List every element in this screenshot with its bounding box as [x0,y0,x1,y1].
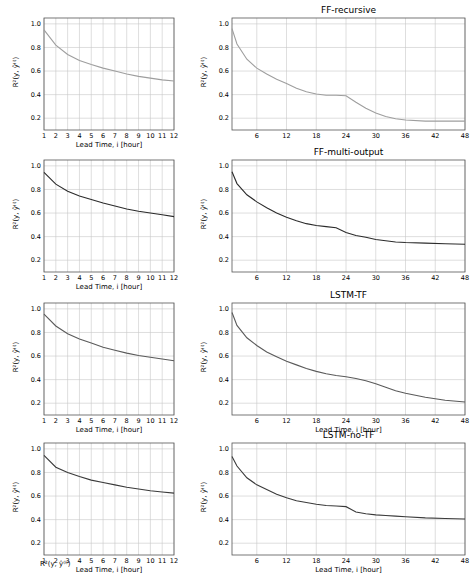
y-tick-label: 0.8 [18,329,41,337]
x-tick-label: 2 [51,132,60,140]
y-tick-label: 0.6 [18,492,41,500]
x-tick-label: 36 [399,132,413,140]
axes-frame [232,443,465,555]
y-tick-label: 0.2 [18,539,41,547]
x-tick-label: 6 [250,132,264,140]
x-tick-label: 1 [40,132,49,140]
x-tick-label: 5 [87,417,96,425]
x-tick-label: 8 [122,557,131,565]
x-tick-label: 42 [428,274,442,282]
y-tick-label: 0.4 [206,91,229,99]
y-tick-label: 1.0 [206,162,229,170]
y-tick-label: 0.4 [18,91,41,99]
x-tick-label: 4 [75,274,84,282]
y-tick-label: 0.2 [18,114,41,122]
y-tick-label: 0.2 [18,256,41,264]
y-axis-label: R²(y, ŷ⁽ⁱ⁾) [12,467,20,527]
axes-frame [44,443,174,555]
x-tick-label: 4 [75,132,84,140]
y-tick-label: 0.8 [206,469,229,477]
x-tick-label: 18 [309,274,323,282]
x-tick-label: 4 [75,417,84,425]
axes-frame [44,160,174,272]
panel-title: LSTM-no-TF [232,430,465,440]
x-tick-label: 10 [146,274,155,282]
x-tick-label: 3 [63,417,72,425]
x-tick-label: 30 [369,417,383,425]
x-axis-label: Lead Time, i [hour] [232,566,465,574]
x-tick-label: 36 [399,274,413,282]
axes-frame [44,303,174,415]
y-axis-label: R²(y, ŷ⁽ⁱ⁾) [200,327,208,387]
y-tick-label: 0.8 [206,44,229,52]
y-tick-label: 0.6 [18,67,41,75]
axes-frame [232,18,465,130]
x-tick-label: 8 [122,274,131,282]
x-tick-label: 30 [369,557,383,565]
x-tick-label: 8 [122,417,131,425]
x-tick-label: 7 [110,274,119,282]
x-tick-label: 5 [87,132,96,140]
x-tick-label: 8 [122,132,131,140]
data-series-line [232,457,465,519]
y-tick-label: 0.8 [206,186,229,194]
x-tick-label: 12 [170,417,179,425]
x-tick-label: 6 [99,132,108,140]
x-tick-label: 11 [158,132,167,140]
x-tick-label: 1 [40,417,49,425]
axes-frame [44,18,174,130]
x-tick-label: 24 [339,132,353,140]
y-axis-label: R²(y, ŷ⁽ⁱ⁾) [200,42,208,102]
panel-title: LSTM-TF [232,290,465,300]
x-axis-label: Lead Time, i [hour] [44,426,174,434]
x-tick-label: 7 [110,132,119,140]
x-tick-label: 48 [458,274,472,282]
x-tick-label: 9 [134,557,143,565]
x-tick-label: 6 [250,557,264,565]
x-tick-label: 42 [428,557,442,565]
panel-title: FF-multi-output [232,147,465,157]
axes-frame [232,303,465,415]
y-tick-label: 0.6 [18,352,41,360]
x-tick-label: 6 [99,557,108,565]
x-tick-label: 12 [280,557,294,565]
figure-root: 1.00.80.60.40.2123456789101112R²(y, ŷ⁽ⁱ⁾… [0,0,473,576]
x-tick-label: 11 [158,417,167,425]
data-series-line [44,314,174,361]
x-tick-label: 9 [134,417,143,425]
x-tick-label: 24 [339,274,353,282]
y-tick-label: 0.6 [206,352,229,360]
x-tick-label: 1 [40,274,49,282]
x-tick-label: 6 [250,274,264,282]
x-tick-label: 12 [170,132,179,140]
y-tick-label: 1.0 [18,20,41,28]
y-tick-label: 0.6 [206,209,229,217]
x-tick-label: 24 [339,417,353,425]
data-series-line [44,172,174,216]
x-tick-label: 9 [134,274,143,282]
x-tick-label: 18 [309,417,323,425]
x-tick-label: 48 [458,132,472,140]
y-tick-label: 0.8 [206,329,229,337]
y-tick-label: 1.0 [206,305,229,313]
y-tick-label: 0.6 [206,492,229,500]
y-axis-label: R²(y, ŷ⁽ⁱ⁾) [12,42,20,102]
y-tick-label: 0.2 [206,114,229,122]
x-tick-label: 12 [280,274,294,282]
y-axis-label: R²(y, ŷ⁽ⁱ⁾) [12,327,20,387]
data-series-line [232,312,465,402]
y-tick-label: 0.2 [206,539,229,547]
y-tick-label: 0.8 [18,469,41,477]
data-series-line [44,455,174,493]
x-tick-label: 6 [99,274,108,282]
x-tick-label: 36 [399,417,413,425]
x-tick-label: 11 [158,557,167,565]
x-tick-label: 30 [369,274,383,282]
y-tick-label: 0.2 [206,256,229,264]
x-tick-label: 10 [146,417,155,425]
x-tick-label: 48 [458,417,472,425]
y-tick-label: 0.2 [18,399,41,407]
x-tick-label: 42 [428,417,442,425]
x-tick-label: 36 [399,557,413,565]
x-tick-label: 12 [280,132,294,140]
